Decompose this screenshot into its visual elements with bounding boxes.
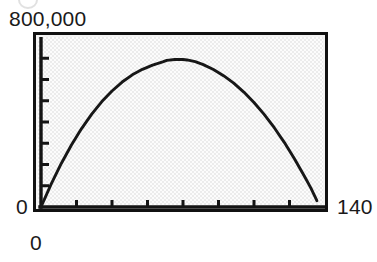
x-axis-max-label: 140	[337, 196, 373, 217]
x-axis-min-label: 0	[30, 232, 42, 253]
y-axis-ticks	[42, 58, 49, 186]
axes-group	[40, 37, 325, 207]
y-axis-min-label: 0	[16, 196, 28, 217]
data-curve	[41, 60, 317, 207]
plot-frame	[33, 32, 328, 212]
y-axis-max-label: 800,000	[9, 8, 86, 29]
x-axis-ticks	[77, 200, 290, 206]
plot-canvas	[38, 37, 325, 209]
